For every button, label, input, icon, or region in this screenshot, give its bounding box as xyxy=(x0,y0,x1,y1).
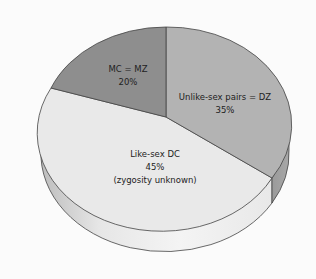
pie-graphic xyxy=(0,0,316,279)
label-like-sex-value: 45% xyxy=(113,161,196,174)
label-like-sex-name: Like-sex DC xyxy=(113,148,196,161)
label-mc-mz: MC = MZ 20% xyxy=(109,63,148,89)
label-like-sex: Like-sex DC 45% (zygosity unknown) xyxy=(113,148,196,187)
label-like-sex-note: (zygosity unknown) xyxy=(113,174,196,187)
label-unlike-sex-value: 35% xyxy=(179,104,271,117)
pie-chart: MC = MZ 20% Unlike-sex pairs = DZ 35% Li… xyxy=(0,0,316,279)
label-mc-mz-value: 20% xyxy=(109,76,148,89)
label-unlike-sex-name: Unlike-sex pairs = DZ xyxy=(179,91,271,104)
label-mc-mz-name: MC = MZ xyxy=(109,63,148,76)
label-unlike-sex: Unlike-sex pairs = DZ 35% xyxy=(179,91,271,117)
